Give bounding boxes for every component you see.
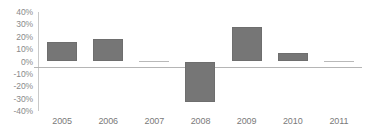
bar[interactable] — [278, 53, 308, 62]
y-axis: 40%30%20%10%0%-10%-20%-30%-40% — [0, 0, 33, 137]
bar[interactable] — [232, 27, 262, 62]
y-axis-tick-label: -30% — [0, 94, 33, 103]
bar-group — [177, 12, 223, 111]
x-axis: 2005200620072008200920102011 — [39, 116, 362, 134]
y-axis-tick-label: -40% — [0, 107, 33, 116]
bar-group — [39, 12, 85, 111]
x-axis-tick-label: 2009 — [224, 116, 270, 127]
y-axis-tick-label: 30% — [0, 20, 33, 29]
plot-area — [39, 12, 362, 111]
bar[interactable] — [47, 42, 77, 62]
x-axis-tick-label: 2008 — [177, 116, 223, 127]
y-axis-tick-label: 0% — [0, 57, 33, 66]
bar-group — [85, 12, 131, 111]
y-axis-tick-label: 10% — [0, 45, 33, 54]
bar-group — [270, 12, 316, 111]
x-axis-tick-label: 2006 — [85, 116, 131, 127]
x-axis-tick-label: 2011 — [316, 116, 362, 127]
bar-group — [316, 12, 362, 111]
bar[interactable] — [139, 61, 169, 62]
bar-chart: 40%30%20%10%0%-10%-20%-30%-40% 200520062… — [0, 0, 365, 137]
y-axis-tick-label: 40% — [0, 8, 33, 17]
y-axis-tick-label: 20% — [0, 32, 33, 41]
bar[interactable] — [93, 39, 123, 61]
x-axis-tick-label: 2010 — [270, 116, 316, 127]
x-axis-tick-label: 2005 — [39, 116, 85, 127]
bar-group — [224, 12, 270, 111]
x-axis-tick-label: 2007 — [131, 116, 177, 127]
y-axis-tick-label: -20% — [0, 82, 33, 91]
y-axis-tick-label: -10% — [0, 69, 33, 78]
bar-group — [131, 12, 177, 111]
bar[interactable] — [185, 62, 215, 103]
bar[interactable] — [324, 61, 354, 62]
